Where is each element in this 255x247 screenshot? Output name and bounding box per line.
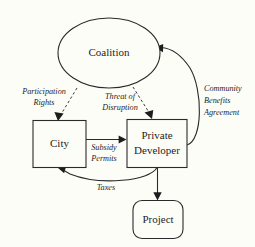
developer-to-project-arrowhead <box>153 192 161 200</box>
private-developer-label-line2: Developer <box>134 144 180 156</box>
community-benefits-agreement-label-line2: Benefits <box>204 96 230 105</box>
threat-of-disruption-label-line1: Threat of <box>105 92 137 101</box>
threat-of-disruption-label-line2: Disruption <box>101 103 138 112</box>
node-coalition[interactable]: Coalition <box>58 18 160 88</box>
community-benefits-agreement-label-line1: Community <box>204 84 242 93</box>
subsidy-permits-label-line1: Subsidy <box>91 143 117 152</box>
participation-rights-label-line1: Participation <box>21 87 66 96</box>
participation-rights-label-line2: Rights <box>33 98 55 107</box>
edge-label-subsidy-permits: Subsidy Permits <box>90 143 117 163</box>
community-benefits-agreement-label-line3: Agreement <box>203 108 240 117</box>
taxes-label: Taxes <box>97 183 115 192</box>
edge-label-community-benefits-agreement: Community Benefits Agreement <box>203 84 242 117</box>
diagram-canvas: Coalition City Private Developer Project… <box>0 0 255 247</box>
private-developer-label-line1: Private <box>141 129 172 141</box>
coalition-label: Coalition <box>89 46 130 58</box>
node-project[interactable]: Project <box>133 201 183 239</box>
edge-label-participation-rights: Participation Rights <box>21 87 66 107</box>
taxes-line <box>64 168 157 181</box>
edge-label-taxes: Taxes <box>97 183 115 192</box>
participation-rights-arrowhead <box>54 112 63 121</box>
node-city[interactable]: City <box>33 121 86 168</box>
node-private-developer[interactable]: Private Developer <box>127 120 187 168</box>
edge-label-threat-of-disruption: Threat of Disruption <box>101 92 138 112</box>
edge-developer-to-project <box>153 168 161 201</box>
project-label: Project <box>142 213 173 225</box>
subsidy-permits-label-line2: Permits <box>90 154 116 163</box>
city-label: City <box>50 137 69 149</box>
threat-of-disruption-arrowhead <box>145 110 154 119</box>
subsidy-permits-arrowhead <box>119 136 127 144</box>
